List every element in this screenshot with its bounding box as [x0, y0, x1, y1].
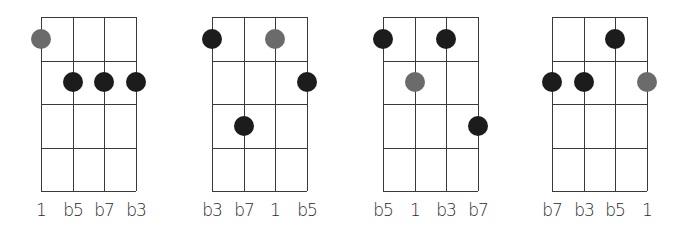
diagram-2-string-2-label: b7 — [228, 200, 260, 220]
diagram-2-fret-line — [212, 61, 307, 62]
diagram-2-string-3-label: 1 — [259, 200, 291, 220]
diagram-3-string-4-label: b7 — [462, 200, 494, 220]
root-note-dot — [637, 72, 657, 92]
chord-note-dot — [605, 29, 625, 49]
chord-note-dot — [234, 116, 254, 136]
chord-note-dot — [373, 29, 393, 49]
root-note-dot — [31, 29, 51, 49]
root-note-dot — [265, 29, 285, 49]
diagram-3-string-2-label: 1 — [399, 200, 431, 220]
diagram-3-string-3-label: b3 — [430, 200, 462, 220]
diagram-4-fret-line — [552, 61, 647, 62]
diagram-4-string-2-label: b3 — [568, 200, 600, 220]
diagram-4-string-3-label: b5 — [599, 200, 631, 220]
diagram-3-fret-line — [383, 191, 478, 192]
diagram-2-string-line — [307, 17, 308, 191]
diagram-1-string-2-label: b5 — [57, 200, 89, 220]
diagram-3-string-1-label: b5 — [367, 200, 399, 220]
chord-note-dot — [574, 72, 594, 92]
diagram-1-string-1-label: 1 — [25, 200, 57, 220]
diagram-4-string-1-label: b7 — [536, 200, 568, 220]
diagram-4-string-line — [647, 17, 648, 191]
diagram-1-fret-line — [41, 17, 136, 18]
root-note-dot — [405, 72, 425, 92]
diagram-2-fret-line — [212, 191, 307, 192]
diagram-4-fret-line — [552, 148, 647, 149]
diagram-2-fret-line — [212, 148, 307, 149]
chord-note-dot — [63, 72, 83, 92]
diagram-4-string-4-label: 1 — [631, 200, 663, 220]
diagram-3-fret-line — [383, 148, 478, 149]
chord-note-dot — [126, 72, 146, 92]
diagram-1-string-4-label: b3 — [120, 200, 152, 220]
chord-note-dot — [436, 29, 456, 49]
diagram-3-fret-line — [383, 61, 478, 62]
diagram-2-string-1-label: b3 — [196, 200, 228, 220]
diagram-3-string-line — [478, 17, 479, 191]
diagram-1-fret-line — [41, 148, 136, 149]
diagram-2-fret-line — [212, 104, 307, 105]
diagram-3-fret-line — [383, 17, 478, 18]
diagram-4-fret-line — [552, 191, 647, 192]
diagram-1-fret-line — [41, 191, 136, 192]
diagram-3-fret-line — [383, 104, 478, 105]
diagram-1-string-3-label: b7 — [88, 200, 120, 220]
diagram-2-string-4-label: b5 — [291, 200, 323, 220]
diagram-1-fret-line — [41, 61, 136, 62]
chord-note-dot — [468, 116, 488, 136]
diagram-4-fret-line — [552, 104, 647, 105]
chord-note-dot — [94, 72, 114, 92]
chord-note-dot — [202, 29, 222, 49]
diagram-1-string-line — [136, 17, 137, 191]
chord-note-dot — [542, 72, 562, 92]
chord-note-dot — [297, 72, 317, 92]
diagram-2-fret-line — [212, 17, 307, 18]
diagram-4-fret-line — [552, 17, 647, 18]
diagram-1-fret-line — [41, 104, 136, 105]
